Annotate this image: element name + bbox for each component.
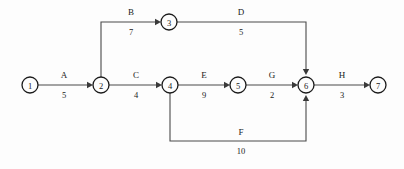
node-label-7: 7 [376,81,380,91]
edge-H: H3 [314,70,370,100]
edge-E: E9 [178,70,230,100]
arrow-head-D [303,69,309,75]
edge-G: G2 [246,70,298,100]
edge-weight-H: 3 [340,90,344,100]
arrow-head-F [303,95,309,101]
node-label-2: 2 [99,81,103,91]
arrow-head-H [364,82,370,88]
node-4[interactable]: 4 [162,77,178,93]
edge-weight-B: 7 [129,27,133,37]
node-label-3: 3 [167,18,171,28]
node-6[interactable]: 6 [298,77,314,93]
node-label-1: 1 [28,81,32,91]
arrow-head-A [87,82,93,88]
edge-label-E: E [201,70,207,80]
node-label-6: 6 [304,81,308,91]
edge-A: A5 [38,70,93,100]
node-2[interactable]: 2 [93,77,109,93]
node-1[interactable]: 1 [22,77,38,93]
arrow-head-C [156,82,162,88]
edge-label-H: H [339,70,346,80]
edge-weight-D: 5 [239,27,243,37]
edge-F: F10 [170,93,309,156]
edge-label-A: A [61,70,68,80]
network-diagram: A5B7C4D5E9F10G2H31234567 [0,0,404,169]
edge-weight-G: 2 [270,90,274,100]
node-7[interactable]: 7 [370,77,386,93]
edge-label-B: B [128,7,134,17]
edge-weight-E: 9 [202,90,206,100]
edge-label-F: F [238,127,243,137]
edge-label-D: D [238,7,245,17]
edge-B: B7 [101,7,161,77]
node-label-5: 5 [236,81,240,91]
edge-label-G: G [269,70,276,80]
node-3[interactable]: 3 [161,14,177,30]
node-5[interactable]: 5 [230,77,246,93]
arrow-head-B [155,19,161,25]
edge-D: D5 [177,7,309,75]
edge-weight-A: 5 [62,90,66,100]
arrow-head-E [224,82,230,88]
network-diagram-canvas: A5B7C4D5E9F10G2H31234567 [0,0,404,169]
arrow-head-G [292,82,298,88]
edge-C: C4 [109,70,162,100]
edge-weight-F: 10 [237,146,246,156]
edge-label-C: C [133,70,139,80]
edge-weight-C: 4 [134,90,139,100]
